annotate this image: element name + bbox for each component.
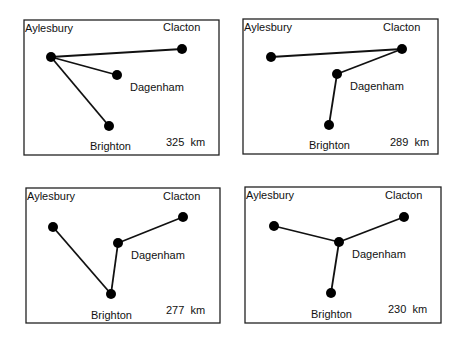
edge-dagenham-clacton xyxy=(118,217,183,243)
total-distance: 289 km xyxy=(390,136,429,148)
node-aylesbury xyxy=(46,52,56,62)
edge-aylesbury-dagenham xyxy=(274,226,339,242)
node-clacton xyxy=(177,44,187,54)
node-brighton xyxy=(326,288,336,298)
panel-2: Aylesbury Clacton Dagenham Brighton 289 … xyxy=(243,19,438,154)
label-aylesbury: Aylesbury xyxy=(27,190,76,202)
edge-aylesbury-brighton xyxy=(51,57,109,126)
node-aylesbury xyxy=(48,222,58,232)
panel-frame xyxy=(26,188,220,323)
label-aylesbury: Aylesbury xyxy=(246,189,295,201)
label-aylesbury: Aylesbury xyxy=(244,21,293,33)
node-brighton xyxy=(324,120,334,130)
node-dagenham xyxy=(332,69,342,79)
network-diagrams: Aylesbury Clacton Dagenham Brighton 325 … xyxy=(0,0,462,341)
panel-1: Aylesbury Clacton Dagenham Brighton 325 … xyxy=(24,20,219,155)
total-distance: 325 km xyxy=(166,136,205,148)
edge-clacton-dagenham xyxy=(339,217,404,242)
panel-4: Aylesbury Clacton Dagenham Brighton 230 … xyxy=(245,187,441,323)
node-aylesbury xyxy=(269,221,279,231)
edge-dagenham-brighton xyxy=(329,74,337,125)
label-brighton: Brighton xyxy=(91,309,132,321)
total-distance: 230 km xyxy=(388,303,427,315)
edge-brighton-dagenham xyxy=(111,243,118,294)
node-clacton xyxy=(178,212,188,222)
label-brighton: Brighton xyxy=(311,308,352,320)
edge-brighton-dagenham xyxy=(331,242,339,293)
node-dagenham xyxy=(334,237,344,247)
label-dagenham: Dagenham xyxy=(352,248,406,260)
edge-aylesbury-dagenham xyxy=(51,57,117,75)
label-dagenham: Dagenham xyxy=(350,80,404,92)
node-dagenham xyxy=(113,238,123,248)
panel-3: Aylesbury Clacton Dagenham Brighton 277 … xyxy=(26,188,220,323)
node-clacton xyxy=(399,212,409,222)
panel-frame xyxy=(24,20,219,155)
edge-aylesbury-brighton xyxy=(53,227,111,294)
node-clacton xyxy=(397,44,407,54)
label-clacton: Clacton xyxy=(383,21,420,33)
label-brighton: Brighton xyxy=(90,140,131,152)
panel-frame xyxy=(243,19,438,154)
label-clacton: Clacton xyxy=(385,189,422,201)
label-aylesbury: Aylesbury xyxy=(25,22,74,34)
label-clacton: Clacton xyxy=(163,21,200,33)
total-distance: 277 km xyxy=(166,304,205,316)
label-dagenham: Dagenham xyxy=(131,249,185,261)
node-brighton xyxy=(106,289,116,299)
label-brighton: Brighton xyxy=(309,139,350,151)
node-brighton xyxy=(104,121,114,131)
edge-aylesbury-clacton xyxy=(51,49,182,57)
label-dagenham: Dagenham xyxy=(130,81,184,93)
label-clacton: Clacton xyxy=(163,190,200,202)
node-dagenham xyxy=(112,70,122,80)
node-aylesbury xyxy=(266,52,276,62)
